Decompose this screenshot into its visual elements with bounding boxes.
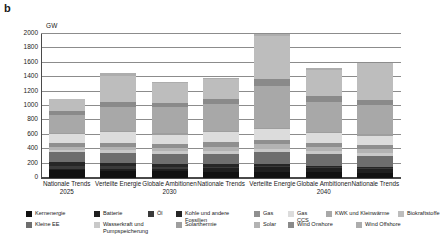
bar-segment[interactable] xyxy=(306,102,342,132)
x-axis-labels: Nationale Trends2025Verteilte EnergieGlo… xyxy=(41,180,401,208)
y-axis-tick-label: 1000 xyxy=(24,102,38,109)
legend-item[interactable]: Wasserkraft und Pumpspeicherung xyxy=(94,221,170,234)
bar-segment[interactable] xyxy=(152,171,188,178)
bar-segment[interactable] xyxy=(152,135,188,144)
x-axis-label-year: 2030 xyxy=(138,188,202,196)
bar-segment[interactable] xyxy=(49,134,85,143)
y-axis-line xyxy=(41,34,42,179)
bar-segment[interactable] xyxy=(152,107,188,133)
bar-segment[interactable] xyxy=(152,83,188,103)
legend-label: KWK und Kleinwärme xyxy=(335,210,389,217)
legend-swatch-icon xyxy=(326,211,332,217)
bar-segment[interactable] xyxy=(357,105,393,134)
bar-stack[interactable] xyxy=(306,68,342,178)
x-axis-label-name: Verteilte Energie xyxy=(249,180,295,187)
legend-swatch-icon xyxy=(26,222,32,228)
x-axis-label-year: 2025 xyxy=(35,188,99,196)
y-axis-tick-label: 800 xyxy=(27,116,38,123)
gridline: 1600 xyxy=(41,62,401,63)
bar-segment[interactable] xyxy=(357,136,393,146)
y-axis-tick-label: 1400 xyxy=(24,73,38,80)
bar-segment[interactable] xyxy=(100,153,136,163)
bar-segment[interactable] xyxy=(100,132,136,142)
gridline: 2000 xyxy=(41,33,401,34)
bar-segment[interactable] xyxy=(152,154,188,164)
bar-segment[interactable] xyxy=(306,70,342,96)
legend-swatch-icon xyxy=(94,222,100,228)
bar-stack[interactable] xyxy=(357,63,393,178)
bar-segment[interactable] xyxy=(100,107,136,131)
bar-segment[interactable] xyxy=(357,156,393,167)
legend-item[interactable]: Biokraftstoffe xyxy=(398,210,442,217)
legend-label: Batterie xyxy=(103,210,122,217)
legend-swatch-icon xyxy=(148,211,154,217)
bar-segment[interactable] xyxy=(203,79,239,99)
x-axis-label-name: Nationale Trends xyxy=(351,180,399,187)
legend-label: Öl xyxy=(157,210,163,217)
y-axis-tick-label: 200 xyxy=(27,160,38,167)
legend-item[interactable]: Solarthermie xyxy=(176,221,248,228)
y-axis-tick-label: 1800 xyxy=(24,44,38,51)
legend-label: Solar xyxy=(263,221,276,228)
legend-label: Biokraftstoffe xyxy=(407,210,440,217)
legend-label: Wind Onshore xyxy=(297,221,333,228)
bar-segment[interactable] xyxy=(254,152,290,164)
chart-legend: KernenergieBatterieÖlKohle und andere Fo… xyxy=(26,210,416,248)
legend-item[interactable]: Wind Onshore xyxy=(288,221,346,228)
bar-segment[interactable] xyxy=(306,154,342,166)
legend-item[interactable]: Kernenergie xyxy=(26,210,86,217)
legend-swatch-icon xyxy=(254,222,260,228)
gridline: 1400 xyxy=(41,76,401,77)
bar-segment[interactable] xyxy=(203,104,239,131)
x-axis-label: Nationale Trends xyxy=(343,180,407,188)
bar-stack[interactable] xyxy=(152,82,188,178)
x-axis-label-name: Nationale Trends xyxy=(43,180,91,187)
legend-item[interactable]: Wind Offshore xyxy=(356,221,416,228)
bar-segment[interactable] xyxy=(203,154,239,165)
y-axis-tick-label: 600 xyxy=(27,131,38,138)
legend-label: Kleine EE xyxy=(35,221,60,228)
bar-segment[interactable] xyxy=(203,132,239,142)
legend-swatch-icon xyxy=(26,211,32,217)
bar-segment[interactable] xyxy=(49,99,85,111)
legend-label: Gas xyxy=(263,210,273,217)
y-axis-tick-label: 1600 xyxy=(24,59,38,66)
bar-segment[interactable] xyxy=(254,36,290,79)
gridline: 1800 xyxy=(41,47,401,48)
bar-segment[interactable] xyxy=(357,63,393,100)
bar-stack[interactable] xyxy=(254,34,290,178)
panel-letter: b xyxy=(4,2,11,14)
bar-segment[interactable] xyxy=(100,76,136,103)
bar-stack[interactable] xyxy=(203,78,239,178)
bar-segment[interactable] xyxy=(100,171,136,178)
y-axis-unit-label: GW xyxy=(46,22,58,29)
y-axis-tick-label: 2000 xyxy=(24,30,38,37)
legend-item[interactable]: Batterie xyxy=(94,210,142,217)
bar-stack[interactable] xyxy=(49,99,85,178)
y-axis-tick-label: 1200 xyxy=(24,88,38,95)
x-axis-label-year: 2040 xyxy=(292,188,356,196)
legend-item[interactable]: Solar xyxy=(254,221,284,228)
x-axis-label-name: Nationale Trends xyxy=(197,180,245,187)
legend-label: Wasserkraft und Pumpspeicherung xyxy=(103,221,170,234)
legend-item[interactable]: Kleine EE xyxy=(26,221,86,228)
legend-swatch-icon xyxy=(176,222,182,228)
legend-swatch-icon xyxy=(254,211,260,217)
x-axis-line xyxy=(41,178,401,179)
legend-item[interactable]: KWK und Kleinwärme xyxy=(326,210,396,217)
legend-label: Wind Offshore xyxy=(365,221,401,228)
legend-swatch-icon xyxy=(356,222,362,228)
bar-stack[interactable] xyxy=(100,73,136,178)
bar-segment[interactable] xyxy=(254,129,290,140)
chart-plot-area: 0200400600800100012001400160018002000 xyxy=(41,34,401,179)
legend-item[interactable]: Öl xyxy=(148,210,170,217)
legend-item[interactable]: Gas xyxy=(254,210,282,217)
bar-segment[interactable] xyxy=(306,133,342,143)
bar-segment[interactable] xyxy=(254,79,290,86)
bar-segment[interactable] xyxy=(49,152,85,161)
bar-segment[interactable] xyxy=(254,86,290,128)
bar-segment[interactable] xyxy=(49,115,85,133)
legend-swatch-icon xyxy=(94,211,100,217)
legend-swatch-icon xyxy=(176,211,182,217)
bar-segment[interactable] xyxy=(49,170,85,178)
